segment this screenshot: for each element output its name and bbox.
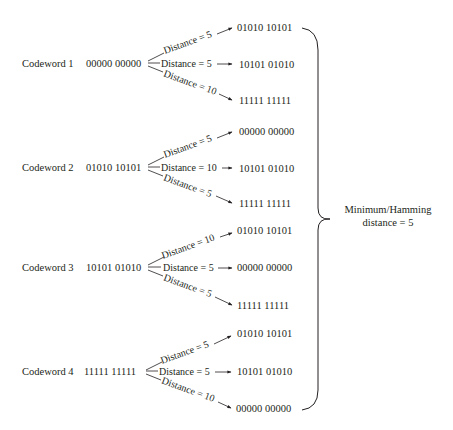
codeword-label: Codeword 2 [22, 162, 74, 173]
distance-label: Distance = 10 [160, 232, 216, 261]
arrow [220, 233, 232, 237]
target-codeword: 01010 10101 [237, 225, 292, 236]
distance-label: Distance = 5 [163, 262, 214, 273]
distance-label: Distance = 10 [162, 68, 218, 97]
branch-connector [148, 270, 163, 276]
codeword-value: 10101 01010 [86, 262, 141, 273]
arrow [219, 94, 232, 100]
summary: Minimum/Hamming distance = 5 [345, 204, 433, 228]
target-codeword: 10101 01010 [237, 366, 292, 377]
codeword-group-1: Codeword 1 00000 00000 Distance = 5 0101… [22, 22, 294, 106]
branch-connector [148, 257, 164, 265]
target-codeword: 10101 01010 [239, 163, 294, 174]
codeword-value: 00000 00000 [86, 58, 141, 69]
arrow [214, 336, 231, 344]
arrow [217, 28, 232, 34]
target-codeword: 11111 11111 [237, 300, 289, 311]
hamming-distance-diagram: Codeword 1 00000 00000 Distance = 5 0101… [0, 0, 453, 430]
target-codeword: 01010 10101 [237, 328, 292, 339]
arrow [217, 132, 232, 138]
codeword-group-3: Codeword 3 10101 01010 Distance = 10 010… [22, 225, 292, 311]
codeword-value: 01010 10101 [86, 162, 141, 173]
target-codeword: 11111 11111 [239, 95, 291, 106]
distance-label: Distance = 5 [162, 272, 213, 300]
target-codeword: 01010 10101 [237, 22, 292, 33]
right-brace [302, 28, 330, 410]
target-codeword: 00000 00000 [239, 126, 294, 137]
codeword-value: 11111 11111 [84, 366, 136, 377]
arrow [216, 196, 232, 203]
summary-line1: Minimum/Hamming [345, 204, 433, 215]
distance-label: Distance = 5 [161, 58, 212, 69]
target-codeword: 11111 11111 [239, 198, 291, 209]
distance-label: Distance = 5 [162, 172, 213, 200]
target-codeword: 00000 00000 [237, 262, 292, 273]
distance-label: Distance = 5 [162, 28, 213, 56]
distance-label: Distance = 10 [161, 162, 217, 173]
distance-label: Distance = 5 [159, 338, 210, 366]
target-codeword: 00000 00000 [236, 403, 291, 414]
codeword-label: Codeword 1 [22, 58, 74, 69]
distance-label: Distance = 10 [160, 375, 216, 404]
target-codeword: 10101 01010 [239, 59, 294, 70]
arrow [215, 297, 232, 305]
codeword-group-4: Codeword 4 11111 11111 Distance = 5 0101… [22, 328, 292, 414]
arrow [218, 402, 231, 408]
codeword-label: Codeword 4 [22, 366, 74, 377]
summary-line2: distance = 5 [363, 217, 414, 228]
codeword-label: Codeword 3 [22, 262, 74, 273]
codeword-group-2: Codeword 2 01010 10101 Distance = 5 0000… [22, 126, 294, 209]
distance-label: Distance = 5 [162, 132, 213, 160]
